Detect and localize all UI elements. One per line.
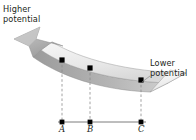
potential-diagram-figure: Higher potential Lower potential A B C	[0, 0, 196, 140]
lower-potential-line-1: Lower	[150, 58, 187, 68]
higher-potential-label: Higher potential	[3, 4, 40, 24]
lower-potential-line-2: potential	[150, 68, 187, 78]
point-label-b: B	[87, 124, 93, 134]
surface-marker-b	[87, 65, 92, 70]
surface-marker-a	[59, 57, 64, 62]
point-label-c: C	[138, 124, 145, 134]
point-label-a: A	[59, 124, 65, 134]
higher-potential-line-2: potential	[3, 14, 40, 24]
higher-potential-line-1: Higher	[3, 4, 40, 14]
lower-potential-label: Lower potential	[150, 58, 187, 78]
